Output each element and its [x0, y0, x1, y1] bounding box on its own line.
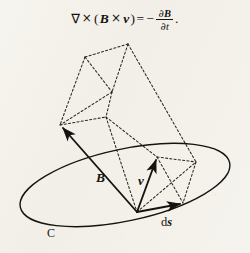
wireframe-edge-v-to-ds: [157, 157, 183, 203]
diagram-canvas: [0, 0, 250, 253]
wireframe-edge-right-to-ds: [183, 162, 196, 203]
wireframe-edge-topleft-to-midleft: [60, 57, 85, 125]
physics-figure: ∇×(B×v)=−∂B∂t.: [0, 0, 250, 253]
wireframe-edge-v-to-right: [157, 157, 196, 162]
wireframe-edge-left-down: [85, 57, 112, 92]
wireframe-edge-top-left: [85, 44, 128, 57]
wireframe-edge-midcenter-down: [106, 117, 137, 212]
label-ds-vector: s: [167, 215, 172, 229]
label-line-element-ds: ds: [161, 216, 172, 229]
wireframe-edge-apex-down: [112, 44, 128, 92]
label-vector-v: v: [138, 174, 144, 187]
label-contour-c: C: [47, 227, 55, 239]
swept-volume-wireframe: [60, 44, 196, 212]
vector-group: [63, 128, 180, 212]
label-vector-b: B: [96, 171, 105, 185]
